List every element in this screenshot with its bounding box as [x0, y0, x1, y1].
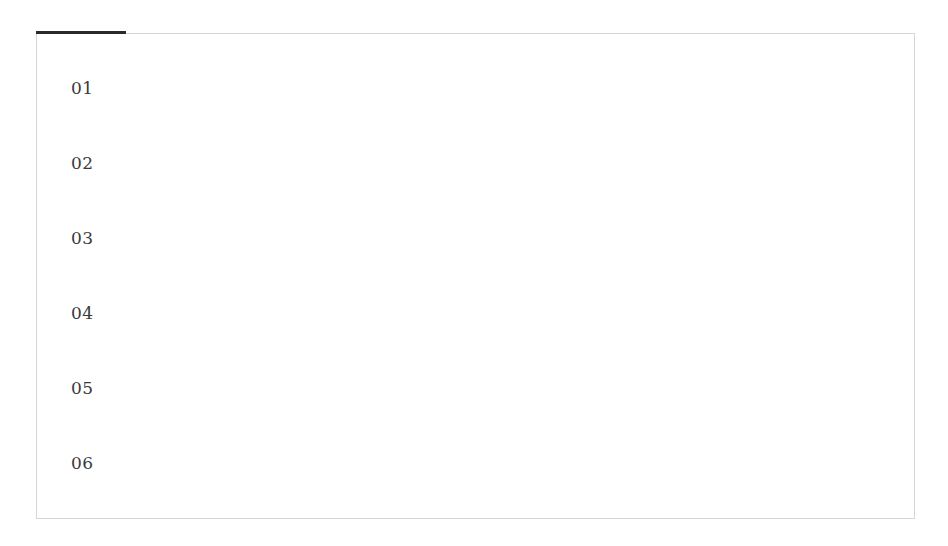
list-item-05: 05: [71, 380, 94, 397]
list-item-03: 03: [71, 230, 94, 247]
list-item-04: 04: [71, 305, 94, 322]
content-panel: [36, 33, 915, 519]
list-item-02: 02: [71, 155, 94, 172]
active-tab-indicator: [36, 31, 126, 34]
list-item-01: 01: [71, 80, 94, 97]
list-item-06: 06: [71, 455, 94, 472]
